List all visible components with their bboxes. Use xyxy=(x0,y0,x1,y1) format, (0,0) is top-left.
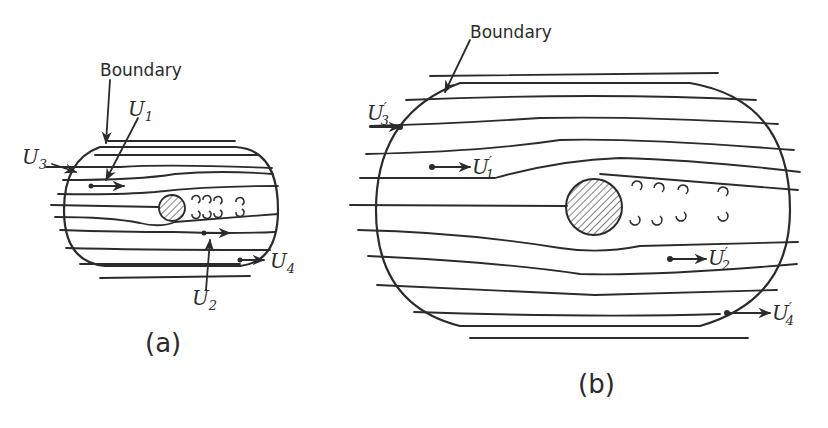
boundary-pointer-a xyxy=(106,80,110,143)
arrow-u3-a xyxy=(52,164,76,172)
label-u1-a: U1 xyxy=(128,97,153,124)
label-u1-b: U′1 xyxy=(472,154,494,182)
label-u2-b: U′2 xyxy=(708,245,730,273)
panel-a xyxy=(46,80,278,290)
caption-a: (a) xyxy=(145,328,181,358)
label-u2-a: U2 xyxy=(192,286,217,313)
label-u3-a: U3 xyxy=(22,145,47,172)
figure-canvas: Boundary U1 U3 U4 U2 (a) Boundary U′3 U′… xyxy=(0,0,828,428)
panel-b xyxy=(350,40,800,338)
boundary-label-b: Boundary xyxy=(470,22,552,42)
boundary-label-a: Boundary xyxy=(100,60,182,80)
label-u4-a: U4 xyxy=(270,249,295,276)
cylinder-a xyxy=(159,195,185,221)
wake-eddies-a xyxy=(192,196,244,219)
label-u3-b: U′3 xyxy=(367,100,389,128)
wake-eddies-b xyxy=(630,181,728,225)
probe-u3-b xyxy=(397,124,403,130)
label-u4-b: U′4 xyxy=(772,300,794,328)
caption-b: (b) xyxy=(578,369,615,399)
cylinder-b xyxy=(566,179,622,235)
leader-u1-a xyxy=(106,118,138,180)
